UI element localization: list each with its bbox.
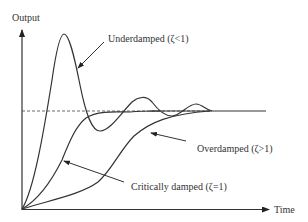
overdamped-arrow [151, 133, 186, 141]
underdamped-arrow [78, 42, 104, 68]
critically-damped-annotation: Critically damped (ζ=1) [131, 181, 227, 192]
critically-damped-curve [22, 111, 160, 209]
critically-damped-arrow [64, 161, 124, 182]
overdamped-curve [22, 111, 210, 209]
x-axis-label: Time [274, 204, 295, 215]
underdamped-annotation: Underdamped (ζ<1) [108, 33, 189, 44]
overdamped-annotation: Overdamped (ζ>1) [197, 143, 273, 154]
y-axis-label: Output [12, 12, 40, 23]
